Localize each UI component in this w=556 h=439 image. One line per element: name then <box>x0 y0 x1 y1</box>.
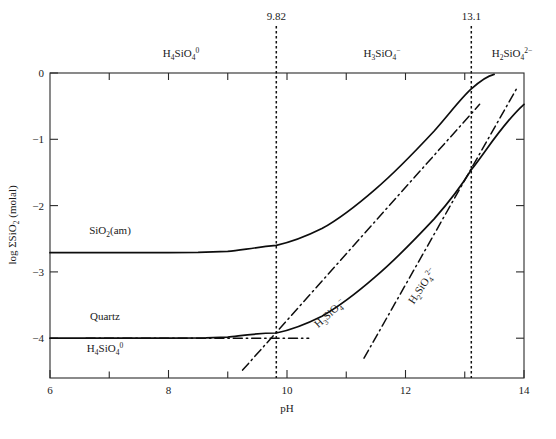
species-label-h3sio4: H3SiO4− <box>364 46 401 62</box>
x-tick-label-8: 8 <box>166 384 172 396</box>
inplot-label-h4sio4: H4SiO40 <box>87 341 124 357</box>
species-label-h2sio4: H2SiO42− <box>492 46 533 62</box>
x-tick-label-14: 14 <box>519 384 531 396</box>
silica-solubility-chart: 0 −1 −2 −3 −4 log ΣSiO2 (molal) <box>0 0 556 439</box>
y-tick-label-0: 0 <box>39 67 45 79</box>
y-axis-title: log ΣSiO2 (molal) <box>6 185 21 265</box>
inplot-label-quartz: Quartz <box>90 310 120 322</box>
line-h2sio4-quartz <box>364 86 518 358</box>
inplot-label-h2sio4-rotated: H2SiO42− <box>405 265 441 308</box>
line-h3sio4-quartz <box>243 104 480 370</box>
y-tick-label-2: −2 <box>32 200 44 212</box>
chart-canvas: 0 −1 −2 −3 −4 log ΣSiO2 (molal) <box>0 0 556 439</box>
inplot-label-sio2-am: SiO2(am) <box>89 224 131 239</box>
y-tick-label-4: −4 <box>32 332 44 344</box>
boundary-label-13-1: 13.1 <box>462 10 481 22</box>
inplot-label-h3sio4-rotated: H3SiO4− <box>311 296 349 333</box>
boundary-label-9-82: 9.82 <box>267 10 286 22</box>
y-axis-ticks <box>50 73 58 338</box>
species-label-h4sio4: H4SiO40 <box>163 46 200 62</box>
y-tick-label-1: −1 <box>32 133 44 145</box>
curve-quartz <box>50 104 524 338</box>
y-tick-label-3: −3 <box>32 266 44 278</box>
x-tick-label-6: 6 <box>47 384 53 396</box>
x-axis-title: pH <box>280 402 294 414</box>
x-tick-label-12: 12 <box>400 384 411 396</box>
x-tick-label-10: 10 <box>282 384 294 396</box>
